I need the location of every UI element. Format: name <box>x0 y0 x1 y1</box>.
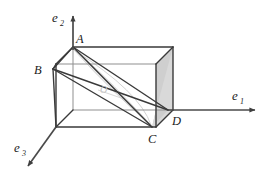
vertex-label-D: D <box>171 114 181 128</box>
vertex-label-B: B <box>34 63 42 77</box>
vertex-label-C: C <box>148 132 157 146</box>
connector-B-to-A-corner <box>53 47 73 69</box>
axis-label-e3-base: e <box>14 140 20 155</box>
edge-depth-bottom-left <box>56 110 73 127</box>
diagonal-B-D <box>53 69 168 110</box>
axis-label-e1-subscript: 1 <box>240 97 244 106</box>
shaded-regions-group <box>152 47 173 127</box>
vertex-label-A: A <box>75 32 84 46</box>
axis-label-e2-base: e <box>52 10 58 25</box>
diagonal-A-D <box>73 47 168 110</box>
coordinate-axes <box>28 16 255 166</box>
axis-label-e1-base: e <box>232 88 238 103</box>
axis-label-e3-subscript: 3 <box>21 149 26 158</box>
figure-container: e 2 e 1 e 3 A B C D O <box>0 0 271 181</box>
axis-label-e2-subscript: 2 <box>60 19 64 28</box>
vertex-label-O: O <box>100 84 107 95</box>
axis-line-e3 <box>28 127 56 166</box>
cuboid-diagram-svg: e 2 e 1 e 3 A B C D O <box>0 0 271 181</box>
